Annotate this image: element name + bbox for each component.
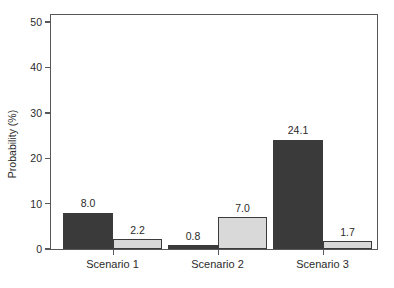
bar-scenario-1-dark	[63, 213, 113, 249]
bar-chart: Probability (%) 50 40 30 20 10 0 8.0 2.2…	[0, 0, 394, 288]
bar-label-scenario-1-dark: 8.0	[81, 197, 96, 209]
bar-scenario-3-dark	[273, 140, 323, 249]
bar-scenario-2-dark	[168, 245, 218, 249]
x-axis-label-scenario-2: Scenario 2	[191, 258, 244, 270]
x-axis-tick-mark	[323, 250, 324, 255]
bar-label-scenario-3-light: 1.7	[340, 226, 355, 238]
bar-scenario-2-light	[218, 217, 267, 249]
y-axis-tick-label-0: 0	[36, 242, 42, 256]
bar-scenario-1-light	[113, 239, 162, 249]
y-axis-tick-label-50: 50	[30, 15, 42, 29]
y-axis-tick-label-10: 10	[30, 197, 42, 211]
y-axis-tick-label-20: 20	[30, 151, 42, 165]
bar-label-scenario-3-dark: 24.1	[288, 124, 308, 136]
bar-label-scenario-2-dark: 0.8	[186, 230, 201, 242]
y-axis-title: Probability (%)	[6, 74, 18, 214]
bar-scenario-3-light	[323, 241, 372, 249]
y-axis-tick-label-30: 30	[30, 106, 42, 120]
bar-label-scenario-1-light: 2.2	[130, 224, 145, 236]
x-axis-label-scenario-1: Scenario 1	[86, 258, 139, 270]
x-axis-tick-mark	[218, 250, 219, 255]
x-axis-label-scenario-3: Scenario 3	[296, 258, 349, 270]
y-axis-tick-label-40: 40	[30, 60, 42, 74]
bar-label-scenario-2-light: 7.0	[235, 202, 250, 214]
x-axis-tick-mark	[113, 250, 114, 255]
